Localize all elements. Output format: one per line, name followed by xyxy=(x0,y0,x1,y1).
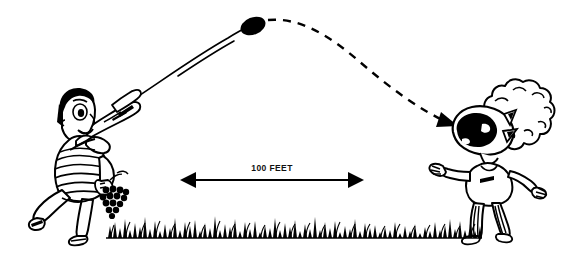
thrower-head xyxy=(57,88,95,141)
figure-catcher xyxy=(429,79,554,244)
descending-trajectory xyxy=(268,20,458,127)
cartoon-illustration: 100 FEET xyxy=(0,0,571,269)
grape-projectile xyxy=(238,13,268,39)
illustration-canvas: 100 FEET xyxy=(0,0,571,269)
catcher-head xyxy=(453,106,517,155)
measurement-label: 100 FEET xyxy=(251,163,293,173)
figure-thrower xyxy=(29,88,141,245)
thrower-legs xyxy=(29,190,93,245)
grass-ground-line xyxy=(106,216,482,238)
arrowhead-left xyxy=(180,172,196,188)
catcher-shirt xyxy=(466,153,512,206)
ascending-trajectory xyxy=(137,28,245,97)
measurement-arrow: 100 FEET xyxy=(180,163,364,188)
arrowhead-right xyxy=(348,172,364,188)
